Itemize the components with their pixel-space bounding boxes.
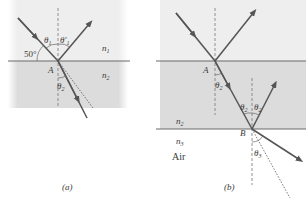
panel-b: A B θ2 θ2 θ2 θ3 n2 n3 Air (b) — [156, 0, 306, 198]
svg-text:θ3: θ3 — [254, 148, 261, 159]
point-b-label: B — [240, 128, 246, 138]
refraction-diagram: 50° θ1 θ′1 θ2 A n1 n2 (a) A B θ2 θ2 θ2 θ… — [0, 0, 308, 202]
point-a-label: A — [47, 65, 54, 75]
svg-text:50°: 50° — [24, 49, 37, 59]
panel-a: 50° θ1 θ′1 θ2 A n1 n2 (a) — [8, 0, 130, 192]
medium-1-region — [160, 0, 306, 61]
svg-text:n3: n3 — [176, 136, 184, 147]
point-a-label: A — [202, 65, 209, 75]
caption-a: (a) — [62, 182, 73, 192]
air-label: Air — [172, 151, 186, 162]
undeviated-path — [252, 129, 290, 198]
caption-b: (b) — [224, 182, 235, 192]
angle-50-label: 50° — [24, 49, 37, 59]
